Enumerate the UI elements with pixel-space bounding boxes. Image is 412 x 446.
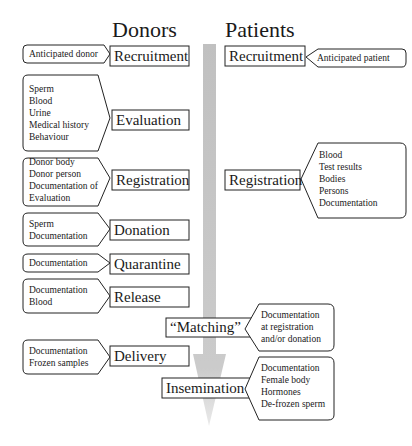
item: Behaviour	[29, 131, 89, 143]
item: Documentation	[29, 257, 88, 269]
donor-items-evaluation: Sperm Blood Urine Medical history Behavi…	[29, 83, 89, 143]
item: Documentation	[319, 197, 378, 209]
timeline-arrow-icon	[193, 44, 226, 426]
patient-stage-registration: Registration	[225, 170, 300, 190]
donor-stage-recruitment: Recruitment	[110, 46, 189, 66]
donors-heading: Donors	[112, 17, 177, 43]
patient-stage-recruitment: Recruitment	[225, 46, 305, 66]
item: Medical history	[29, 119, 89, 131]
item: Documentation	[261, 362, 325, 374]
patient-items-insemination: Documentation Female body Hormones De-fr…	[261, 362, 325, 410]
item: at registration	[261, 321, 321, 333]
item: Documentation	[29, 230, 88, 242]
donor-stage-evaluation: Evaluation	[112, 110, 189, 130]
item: Documentation of	[29, 180, 98, 192]
item: Sperm	[29, 83, 89, 95]
donor-items-donation: Sperm Documentation	[29, 218, 88, 242]
item: Sperm	[29, 218, 88, 230]
item: Frozen samples	[29, 357, 88, 369]
item: Blood	[29, 95, 89, 107]
donor-items-delivery: Documentation Frozen samples	[29, 345, 88, 369]
donor-stage-delivery: Delivery	[110, 346, 189, 366]
patients-heading: Patients	[225, 17, 295, 43]
item: Hormones	[261, 386, 325, 398]
item: Documentation	[29, 284, 88, 296]
donor-stage-release: Release	[110, 287, 189, 307]
item: Female body	[261, 374, 325, 386]
donor-items-release: Documentation Blood	[29, 284, 88, 308]
item: Blood	[319, 149, 378, 161]
item: Documentation	[29, 345, 88, 357]
patient-stage-matching: “Matching”	[166, 318, 268, 337]
donor-stage-donation: Donation	[110, 220, 189, 240]
item: Evaluation	[29, 192, 98, 204]
item: and/or donation	[261, 333, 321, 345]
item: Donor body	[29, 156, 98, 168]
item: Persons	[319, 185, 378, 197]
item: Documentation	[261, 309, 321, 321]
item: Urine	[29, 107, 89, 119]
donor-items-quarantine: Documentation	[29, 257, 88, 269]
donor-items-registration: Donor body Donor person Documentation of…	[29, 156, 98, 204]
item: Bodies	[319, 173, 378, 185]
donor-items-recruitment: Anticipated donor	[29, 48, 98, 60]
item: De-frozen sperm	[261, 398, 325, 410]
item: Donor person	[29, 168, 98, 180]
donor-stage-registration: Registration	[112, 170, 189, 190]
patient-stage-insemination: Insemination	[162, 378, 268, 398]
patient-items-recruitment: Anticipated patient	[317, 52, 390, 64]
patient-items-matching: Documentation at registration and/or don…	[261, 309, 321, 345]
item: Test results	[319, 161, 378, 173]
item: Anticipated patient	[317, 52, 390, 64]
donor-stage-quarantine: Quarantine	[110, 254, 189, 274]
patient-items-registration: Blood Test results Bodies Persons Docume…	[319, 149, 378, 209]
item: Anticipated donor	[29, 48, 98, 60]
item: Blood	[29, 296, 88, 308]
